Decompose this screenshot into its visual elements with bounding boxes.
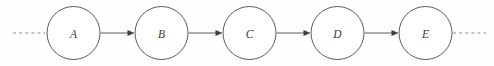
chain-diagram-canvas: ABCDE	[0, 0, 494, 66]
node-e-label: E	[421, 28, 429, 40]
node-e[interactable]: E	[399, 7, 452, 60]
node-a[interactable]: A	[47, 7, 100, 60]
node-d-label: D	[332, 28, 342, 40]
arrowhead-b-to-c-icon	[216, 30, 223, 36]
arrowhead-d-to-e-icon	[392, 30, 399, 36]
node-b[interactable]: B	[135, 7, 188, 60]
arrowhead-a-to-b-icon	[128, 30, 135, 36]
node-b-label: B	[158, 28, 165, 40]
node-c-label: C	[246, 28, 254, 40]
arrowhead-c-to-d-icon	[304, 30, 311, 36]
chain-diagram: ABCDE	[0, 0, 494, 66]
node-c[interactable]: C	[223, 7, 276, 60]
node-d[interactable]: D	[311, 7, 364, 60]
node-a-label: A	[69, 28, 78, 40]
